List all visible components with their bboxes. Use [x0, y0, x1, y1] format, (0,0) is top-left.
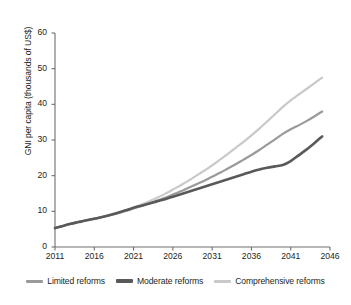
plot-area	[0, 0, 351, 305]
gni-per-capita-line-chart: GNI per capita (thousands of US$) 010203…	[0, 0, 351, 305]
legend-label-comprehensive-reforms: Comprehensive reforms	[235, 276, 325, 286]
legend-item-moderate-reforms[interactable]: Moderate reforms	[116, 276, 203, 286]
legend-swatch-moderate-reforms	[116, 279, 133, 282]
legend-item-limited-reforms[interactable]: Limited reforms	[26, 276, 105, 286]
legend-label-moderate-reforms: Moderate reforms	[137, 276, 203, 286]
series-line-comprehensive-reforms	[55, 78, 322, 229]
legend-item-comprehensive-reforms[interactable]: Comprehensive reforms	[214, 276, 325, 286]
legend-swatch-limited-reforms	[26, 280, 43, 283]
series-line-moderate-reforms	[55, 136, 322, 228]
legend-label-limited-reforms: Limited reforms	[47, 276, 105, 286]
chart-legend: Limited reforms Moderate reforms Compreh…	[0, 276, 351, 286]
series-line-limited-reforms	[55, 111, 322, 228]
legend-swatch-comprehensive-reforms	[214, 280, 231, 283]
